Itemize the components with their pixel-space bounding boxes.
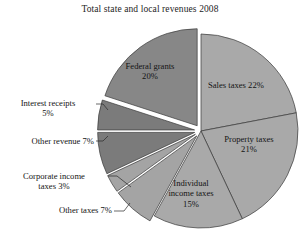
pie-label-interest-receipts: Interest receipts 5% [2,98,94,119]
pie-label-line: Federal grants [108,61,192,71]
pie-label-line: income taxes [152,188,230,198]
pie-label-line: Individual [152,178,230,188]
pie-label-line: Interest receipts [2,98,94,108]
pie-label-property-taxes: Property taxes 21% [206,134,292,155]
pie-label-line: 20% [108,71,192,81]
pie-label-line: 21% [206,144,292,154]
pie-label-other-revenue: Other revenue 7% [2,136,94,146]
pie-label-line: Other revenue 7% [2,136,94,146]
pie-label-line: taxes 3% [2,181,106,191]
pie-label-line: 15% [152,199,230,209]
pie-label-line: Corporate income [2,171,106,181]
pie-label-corporate-income-taxes: Corporate income taxes 3% [2,171,106,192]
pie-label-line: Sales taxes 22% [208,80,296,90]
pie-label-individual-income-taxes: Individual income taxes 15% [152,178,230,209]
pie-chart: Total state and local revenues 2008 [0,0,300,233]
pie-label-other-taxes: Other taxes 7% [24,205,112,215]
pie-label-line: Other taxes 7% [24,205,112,215]
pie-label-federal-grants: Federal grants 20% [108,61,192,82]
pie-label-line: 5% [2,108,94,118]
pie-label-line: Property taxes [206,134,292,144]
pie-label-sales-taxes: Sales taxes 22% [208,80,296,90]
